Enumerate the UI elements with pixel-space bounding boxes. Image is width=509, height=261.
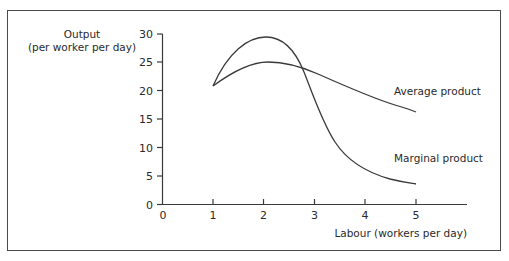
y-tick-label-20: 20 (139, 85, 153, 98)
y-tick-label-10: 10 (139, 142, 153, 155)
y-tick-label-15: 15 (139, 113, 153, 126)
chart-canvas: Output (per worker per day) 0 5 10 15 20… (0, 0, 509, 261)
x-ticks (213, 199, 416, 205)
x-tick-labels: 0 1 2 3 4 5 (160, 209, 420, 222)
y-axis-label-line1: Output (64, 28, 100, 40)
x-tick-label-0: 0 (160, 209, 167, 222)
y-tick-label-0: 0 (146, 199, 153, 212)
x-tick-label-3: 3 (311, 209, 318, 222)
y-tick-label-30: 30 (139, 28, 153, 41)
y-axis-label-line2: (per worker per day) (28, 41, 136, 53)
marginal-product-curve (213, 37, 416, 184)
y-tick-label-5: 5 (146, 170, 153, 183)
marginal-product-label: Marginal product (394, 152, 483, 164)
x-tick-label-5: 5 (413, 209, 420, 222)
y-ticks (157, 34, 163, 205)
average-product-label: Average product (394, 85, 481, 97)
x-tick-label-1: 1 (210, 209, 217, 222)
y-tick-label-25: 25 (139, 56, 153, 69)
y-tick-labels: 0 5 10 15 20 25 30 (139, 28, 153, 212)
average-product-curve (213, 62, 416, 112)
x-tick-label-2: 2 (260, 209, 267, 222)
x-axis-label: Labour (workers per day) (334, 227, 467, 239)
x-tick-label-4: 4 (362, 209, 369, 222)
